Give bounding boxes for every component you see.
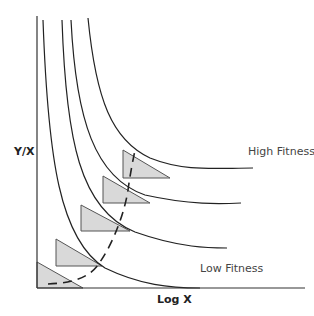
y-axis-label: Y/X	[14, 145, 34, 158]
high-fitness-label: High Fitness	[248, 145, 314, 158]
fitness-diagram	[0, 0, 314, 316]
triangle-2	[81, 205, 130, 231]
x-axis-label: Log X	[157, 293, 192, 306]
triangle-1	[56, 239, 102, 266]
low-fitness-label: Low Fitness	[200, 262, 263, 275]
fitness-curves	[43, 18, 253, 288]
fitness-curve-4	[88, 18, 253, 169]
